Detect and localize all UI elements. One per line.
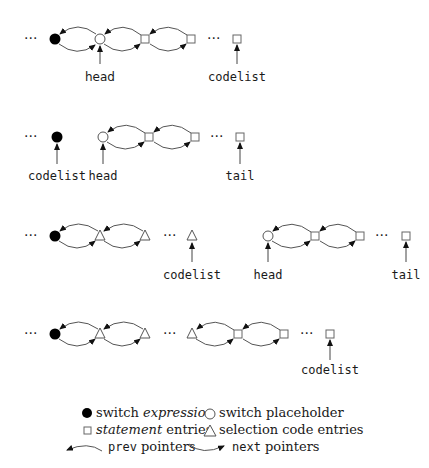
next-pointer-arrow [243,339,279,346]
next-pointer-arrow [104,339,140,346]
prev-pointer-arrow [104,224,143,231]
switch-placeholder-node [95,34,105,44]
switch-placeholder-node [263,231,273,241]
switch-expression-node [52,132,63,143]
next-pointer-arrow [59,339,95,346]
codelist-label: codelist [163,268,221,282]
head-label: head [254,268,283,282]
next-pointer-arrow [104,241,140,248]
statement-node [145,133,153,141]
switch-placeholder-legend-icon [205,409,215,419]
switch-placeholder-node [98,132,108,142]
ellipsis: ··· [163,227,176,243]
next-pointer-arrow [196,339,233,346]
statement-node [141,35,149,43]
statement-node [191,133,199,141]
prev-pointer-arrow [108,125,145,133]
ellipsis: ··· [24,128,37,144]
ellipsis: ··· [210,128,223,144]
legend: switch expression switch placeholder sta… [67,405,364,454]
prev-pointer-arrow [60,224,98,231]
tail-label: tail [392,268,421,282]
statement-node [402,232,410,240]
prev-pointer-arrow [273,224,311,232]
selection-code-node [140,328,150,338]
statement-node [326,330,334,338]
switch-expression-legend-icon [82,408,92,418]
row-3: ··· ··· codelist ··· head tail [24,224,420,282]
next-pointers-legend-label: next pointers [232,439,320,454]
next-pointer-arrow [154,142,190,149]
prev-pointer-arrow [320,224,356,232]
switch-expression-node [50,329,61,340]
next-pointer-arrow [104,44,140,51]
statement-entries-legend-label: statement entries [96,422,212,437]
next-pointer-arrow [272,241,310,248]
statement-node [187,35,195,43]
selection-code-node [95,230,105,240]
ellipsis: ··· [375,227,388,243]
next-pointer-arrow [107,142,144,149]
codelist-label: codelist [301,363,359,377]
row-2: ··· ··· codelist head tail [24,125,254,183]
prev-pointer-arrow [150,27,187,35]
next-pointer-arrow [59,44,95,51]
selection-code-legend-label: selection code entries [219,422,364,437]
statement-node [311,232,319,240]
tail-label: tail [226,169,255,183]
selection-code-node [187,328,197,338]
next-pointer-arrow [320,241,355,248]
prev-pointer-arrow [197,322,234,330]
switch-placeholder-legend-label: switch placeholder [219,405,345,420]
selection-code-node [187,230,197,240]
ellipsis: ··· [24,227,37,243]
head-label: head [85,70,115,84]
ellipsis: ··· [163,325,176,341]
prev-pointer-arrow [60,322,98,329]
next-pointer-arrow [150,44,186,51]
selection-code-node [95,328,105,338]
selection-code-node [140,230,150,240]
ellipsis: ··· [300,325,313,341]
switch-expression-node [50,34,61,45]
prev-pointer-arrow [243,322,280,330]
prev-pointer-legend-icon [67,446,102,451]
statement-node [356,232,364,240]
statement-node [233,35,241,43]
statement-node [236,133,244,141]
ellipsis: ··· [207,30,220,46]
statement-node [280,330,288,338]
prev-pointers-legend-label: prev pointers [108,439,196,454]
next-pointer-arrow [59,241,95,248]
statement-entries-legend-icon [84,427,91,434]
codelist-label: codelist [28,169,86,183]
codelist-label: codelist [208,70,266,84]
ellipsis: ··· [24,30,37,46]
linked-list-diagram: ··· ··· head codelist ··· ··· [0,0,429,468]
prev-pointer-arrow [104,322,143,329]
ellipsis: ··· [24,325,37,341]
prev-pointer-arrow [60,27,96,34]
switch-expression-node [50,231,61,242]
prev-pointer-arrow [154,125,191,133]
row-4: ··· ··· ··· codelist [24,322,359,377]
row-1: ··· ··· head codelist [24,27,266,84]
switch-expression-legend-label: switch expression [96,405,214,420]
prev-pointer-arrow [105,27,141,35]
statement-node [234,330,242,338]
head-label: head [89,169,118,183]
